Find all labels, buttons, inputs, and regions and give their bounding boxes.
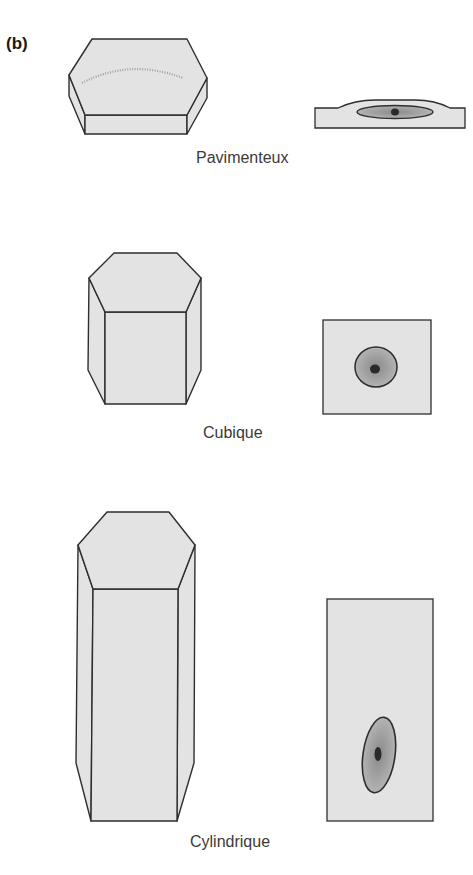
columnar-prism (76, 512, 195, 821)
squamous-prism (69, 39, 207, 134)
cuboidal-cell-section (323, 320, 431, 414)
squamous-cell-section (315, 100, 465, 128)
label-cuboidal: Cubique (203, 424, 263, 442)
label-columnar: Cylindrique (190, 833, 270, 851)
columnar-cell-section (327, 599, 433, 821)
label-squamous: Pavimenteux (196, 149, 289, 167)
cuboidal-prism (88, 253, 201, 404)
